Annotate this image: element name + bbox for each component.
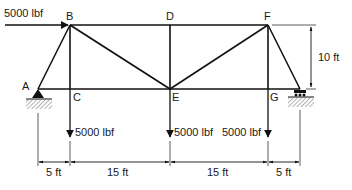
load-label-C: 5000 lbf	[75, 126, 115, 138]
member-F-right	[268, 25, 300, 89]
node-label-D: D	[166, 10, 174, 22]
node-label-E: E	[172, 91, 179, 103]
dimension-height: 10 ft	[272, 25, 339, 89]
node-label-C: C	[73, 91, 81, 103]
load-label-E: 5000 lbf	[174, 126, 214, 138]
dimension-horizontal: 5 ft 15 ft 15 ft 5 ft	[38, 110, 300, 178]
node-label-G: G	[270, 91, 279, 103]
load-label-G: 5000 lbf	[222, 126, 262, 138]
dimension-label-span-1: 5 ft	[46, 166, 61, 178]
dimension-label-height: 10 ft	[318, 51, 339, 63]
dimension-label-span-3: 15 ft	[207, 166, 228, 178]
roller-support-right	[288, 90, 314, 107]
load-horizontal-B: 5000 lbf	[4, 7, 68, 25]
truss-diagram: A B C D E F G 5000 lbf 5000 lbf 5000 lbf…	[0, 0, 352, 190]
truss-members	[38, 25, 300, 89]
member-AB	[38, 25, 70, 89]
node-label-B: B	[66, 10, 73, 22]
member-EF	[170, 25, 268, 89]
node-label-F: F	[264, 10, 271, 22]
dimension-label-span-4: 5 ft	[276, 166, 291, 178]
dimension-label-span-2: 15 ft	[107, 166, 128, 178]
node-label-A: A	[22, 80, 30, 92]
member-BE	[70, 25, 170, 89]
pin-support-left	[26, 89, 52, 109]
load-vertical-G: 5000 lbf	[222, 89, 268, 138]
load-label-B: 5000 lbf	[4, 7, 44, 19]
